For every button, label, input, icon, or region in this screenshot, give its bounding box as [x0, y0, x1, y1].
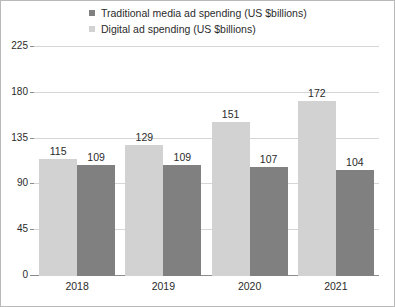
bar-rect: [77, 165, 115, 276]
bar-value-label: 104: [336, 157, 374, 168]
bar-rect: [163, 165, 201, 276]
chart-legend: Traditional media ad spending (US $billi…: [89, 5, 379, 37]
bar-rect: [250, 167, 288, 276]
x-tick-label-2021: 2021: [298, 280, 374, 292]
bar-groups: 115109129109151107172104: [34, 47, 379, 276]
legend-swatch-digital: [89, 26, 95, 32]
y-tick-label-90: 90: [17, 178, 28, 188]
y-tick-label-45: 45: [17, 224, 28, 234]
bar-group-2019: 129109: [125, 47, 201, 276]
legend-item-traditional: Traditional media ad spending (US $billi…: [89, 5, 379, 20]
bar-value-label: 172: [298, 88, 336, 99]
bar-rect: [336, 170, 374, 276]
bar-2019-traditional[interactable]: 109: [163, 47, 201, 276]
bar-2020-traditional[interactable]: 107: [250, 47, 288, 276]
bar-rect: [212, 122, 250, 276]
y-axis-labels: 04590135180225: [1, 47, 28, 276]
legend-item-digital: Digital ad spending (US $billions): [89, 21, 379, 36]
bar-value-label: 109: [77, 152, 115, 163]
x-tick-label-2018: 2018: [39, 280, 115, 292]
legend-label-traditional: Traditional media ad spending (US $billi…: [101, 7, 307, 19]
x-tick-label-2020: 2020: [212, 280, 288, 292]
bar-rect: [125, 145, 163, 276]
bar-value-label: 107: [250, 154, 288, 165]
bar-chart-figure: Traditional media ad spending (US $billi…: [0, 0, 395, 307]
bar-2018-digital[interactable]: 115: [39, 47, 77, 276]
legend-label-digital: Digital ad spending (US $billions): [101, 23, 256, 35]
bar-2021-digital[interactable]: 172: [298, 47, 336, 276]
bar-2019-digital[interactable]: 129: [125, 47, 163, 276]
y-tick-label-225: 225: [11, 41, 28, 51]
y-tick-label-135: 135: [11, 133, 28, 143]
bar-value-label: 129: [125, 132, 163, 143]
bar-rect: [298, 101, 336, 276]
x-tick-label-2019: 2019: [125, 280, 201, 292]
legend-swatch-traditional: [89, 10, 95, 16]
x-axis-labels: 2018201920202021: [34, 280, 379, 292]
bar-rect: [39, 159, 77, 276]
bar-group-2018: 115109: [39, 47, 115, 276]
bar-value-label: 109: [163, 152, 201, 163]
bar-value-label: 115: [39, 146, 77, 157]
bar-2020-digital[interactable]: 151: [212, 47, 250, 276]
y-tick-label-180: 180: [11, 87, 28, 97]
y-tick-label-0: 0: [22, 270, 28, 280]
bar-group-2021: 172104: [298, 47, 374, 276]
bar-2021-traditional[interactable]: 104: [336, 47, 374, 276]
bar-value-label: 151: [212, 109, 250, 120]
bar-group-2020: 151107: [212, 47, 288, 276]
bar-2018-traditional[interactable]: 109: [77, 47, 115, 276]
plot-area: 115109129109151107172104: [34, 47, 379, 276]
